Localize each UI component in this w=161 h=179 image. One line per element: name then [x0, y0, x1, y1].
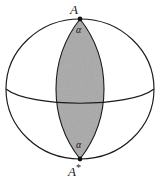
south-pole-label: A* [68, 163, 81, 178]
north-angle-label: α [76, 25, 81, 35]
south-angle-label: α [76, 140, 81, 150]
spherical-lune-figure: A A* α α [0, 0, 161, 179]
spherical-lune-region [56, 19, 104, 159]
north-pole-marker [78, 17, 83, 22]
north-pole-label: A [70, 1, 78, 16]
south-pole-label-text: A [68, 164, 76, 179]
south-pole-marker [78, 157, 83, 162]
south-pole-label-superscript: * [76, 162, 81, 173]
lune-fill [56, 19, 104, 159]
north-pole-label-text: A [70, 2, 78, 17]
